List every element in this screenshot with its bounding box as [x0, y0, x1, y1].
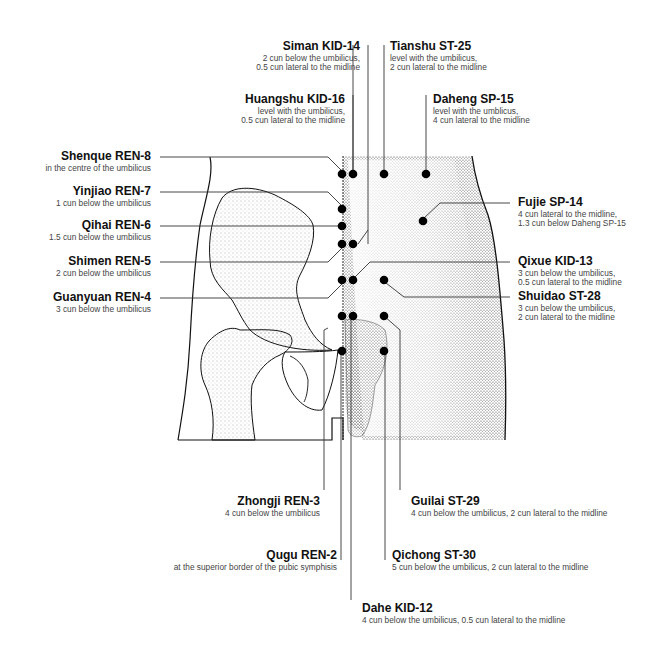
point-shenque: [338, 170, 347, 179]
point-dahe: [349, 312, 358, 321]
label-title: Qugu REN-2: [174, 549, 337, 563]
label-shenque: Shenque REN-8 in the centre of the umbil…: [45, 150, 151, 173]
label-yinjiao: Yinjiao REN-7 1 cun below the umbilicus: [56, 185, 151, 208]
label-desc: 0.5 cun lateral to the midline: [256, 63, 360, 73]
label-title: Fujie SP-14: [518, 196, 626, 210]
label-desc: 2 cun lateral to the midline: [518, 313, 615, 323]
label-desc: in the centre of the umbilicus: [45, 164, 151, 174]
point-qichong: [380, 347, 389, 356]
label-title: Qixue KID-13: [518, 255, 622, 269]
point-shimen: [338, 240, 347, 249]
point-shuidao: [380, 276, 389, 285]
point-fujie: [419, 217, 428, 226]
point-qixue: [349, 276, 358, 285]
label-desc: 5 cun below the umbilicus, 2 cun lateral…: [392, 563, 588, 573]
point-huangshu: [349, 170, 358, 179]
label-title: Shimen REN-5: [56, 255, 151, 269]
label-siman: Siman KID-14 2 cun below the umbilicus, …: [256, 40, 360, 73]
label-guanyuan: Guanyuan REN-4 3 cun below the umbilicus: [53, 291, 151, 314]
label-desc: 3 cun below the umbilicus: [53, 305, 151, 315]
label-title: Daheng SP-15: [433, 93, 530, 107]
label-qixue: Qixue KID-13 3 cun below the umbilicus, …: [518, 255, 622, 288]
label-desc: 2 cun below the umbilicus: [56, 269, 151, 279]
label-title: Tianshu ST-25: [390, 40, 487, 54]
label-title: Dahe KID-12: [362, 602, 565, 616]
label-guilai: Guilai ST-29 4 cun below the umbilicus, …: [411, 495, 607, 518]
label-title: Guanyuan REN-4: [53, 291, 151, 305]
label-title: Qichong ST-30: [392, 549, 588, 563]
label-title: Huangshu KID-16: [241, 93, 345, 107]
label-desc: 2 cun lateral to the midline: [390, 63, 487, 73]
point-yinjiao: [338, 205, 347, 214]
point-guilai: [380, 312, 389, 321]
point-zhongji: [338, 312, 347, 321]
label-title: Siman KID-14: [256, 40, 360, 54]
label-tianshu: Tianshu ST-25 level with the umbilicus, …: [390, 40, 487, 73]
label-shuidao: Shuidao ST-28 3 cun below the umbilicus,…: [518, 290, 615, 323]
label-qihai: Qihai REN-6 1.5 cun below the umbilicus: [49, 219, 151, 242]
label-desc: at the superior border of the pubic symp…: [174, 563, 337, 573]
label-desc: 4 cun below the umbilicus, 0.5 cun later…: [362, 616, 565, 626]
label-desc: 4 cun below the umbilicus: [225, 509, 320, 519]
label-desc: 0.5 cun lateral to the midline: [241, 116, 345, 126]
label-title: Zhongji REN-3: [225, 495, 320, 509]
label-huangshu: Huangshu KID-16 level with the umbilicus…: [241, 93, 345, 126]
point-daheng: [422, 170, 431, 179]
label-qichong: Qichong ST-30 5 cun below the umbilicus,…: [392, 549, 588, 572]
point-qihai: [338, 222, 347, 231]
label-desc: 0.5 cun lateral to the midline: [518, 278, 622, 288]
point-guanyuan: [338, 276, 347, 285]
label-desc: 1 cun below the umbilicus: [56, 199, 151, 209]
label-desc: 4 cun below the umbilicus, 2 cun lateral…: [411, 509, 607, 519]
label-title: Guilai ST-29: [411, 495, 607, 509]
label-qugu: Qugu REN-2 at the superior border of the…: [174, 549, 337, 572]
label-title: Qihai REN-6: [49, 219, 151, 233]
label-desc: 1.3 cun below Daheng SP-15: [518, 219, 626, 229]
point-qugu: [338, 347, 347, 356]
point-siman: [349, 240, 358, 249]
label-shimen: Shimen REN-5 2 cun below the umbilicus: [56, 255, 151, 278]
label-dahe: Dahe KID-12 4 cun below the umbilicus, 0…: [362, 602, 565, 625]
point-tianshu: [380, 170, 389, 179]
label-zhongji: Zhongji REN-3 4 cun below the umbilicus: [225, 495, 320, 518]
label-desc: 4 cun lateral to the midline: [433, 116, 530, 126]
label-fujie: Fujie SP-14 4 cun lateral to the midline…: [518, 196, 626, 229]
label-title: Yinjiao REN-7: [56, 185, 151, 199]
label-daheng: Daheng SP-15 level with the umblicus, 4 …: [433, 93, 530, 126]
label-title: Shuidao ST-28: [518, 290, 615, 304]
label-desc: 1.5 cun below the umbilicus: [49, 233, 151, 243]
label-title: Shenque REN-8: [45, 150, 151, 164]
